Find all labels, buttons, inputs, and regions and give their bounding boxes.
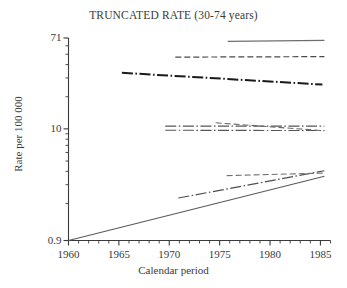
- x-axis-label: Calendar period: [0, 264, 347, 276]
- chart-title: TRUNCATED RATE (30-74 years): [0, 9, 347, 21]
- y-tick-label: 0.9: [48, 234, 62, 246]
- series-line-9: [69, 176, 325, 240]
- x-tick-label: 1965: [99, 248, 139, 260]
- x-tick-label: 1960: [49, 248, 89, 260]
- y-tick-label: 10: [51, 122, 62, 134]
- x-tick-label: 1975: [200, 248, 240, 260]
- y-axis-label: Rate per 100 000: [12, 79, 24, 189]
- y-tick-label: 71: [51, 31, 62, 43]
- series-line-8: [227, 173, 324, 175]
- x-tick-label: 1980: [250, 248, 290, 260]
- x-tick-label: 1985: [300, 248, 340, 260]
- chart-figure: TRUNCATED RATE (30-74 years) Rate per 10…: [0, 0, 347, 288]
- x-tick-label: 1970: [149, 248, 189, 260]
- series-line-1: [228, 40, 325, 41]
- series-line-6: [216, 123, 325, 131]
- series-line-3: [122, 73, 323, 85]
- series-line-7: [178, 171, 324, 198]
